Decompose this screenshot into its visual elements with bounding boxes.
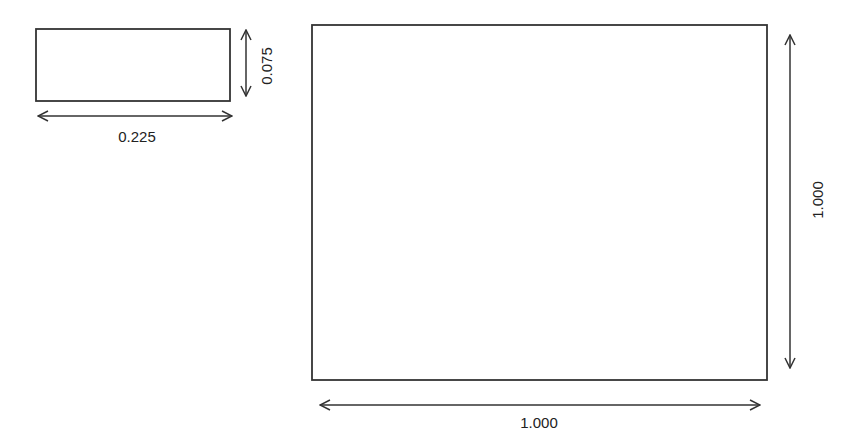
large-width-label: 1.000 bbox=[520, 414, 558, 431]
small-width-label: 0.225 bbox=[118, 128, 156, 145]
small-rectangle bbox=[36, 29, 230, 101]
scale-diagram: 0.075 0.225 1.000 1.000 bbox=[0, 0, 856, 447]
large-height-label: 1.000 bbox=[809, 181, 826, 219]
small-height-label: 0.075 bbox=[258, 47, 275, 85]
large-rectangle bbox=[312, 25, 767, 380]
